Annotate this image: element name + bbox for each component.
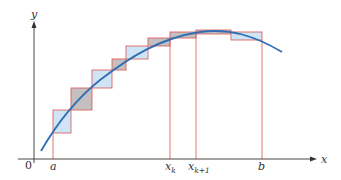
tick-label-xk1: xk+1 xyxy=(188,160,210,175)
origin-label: 0 xyxy=(25,159,32,172)
x-axis-label: x xyxy=(321,153,328,166)
step-rect-2 xyxy=(71,88,92,110)
tick-label-a: a xyxy=(50,160,57,173)
tick-label-xk: xk xyxy=(165,160,176,175)
step-rect-5 xyxy=(126,46,148,59)
x-axis-arrow-icon xyxy=(310,157,317,162)
step-rect-1 xyxy=(53,110,71,133)
step-rect-4 xyxy=(112,59,126,70)
step-rectangles xyxy=(53,30,262,133)
tick-label-b: b xyxy=(258,160,265,173)
riemann-diagram: y x 0 a xk xk+1 b xyxy=(0,0,341,180)
step-rect-6 xyxy=(148,38,170,46)
y-axis-label: y xyxy=(30,8,38,21)
axes xyxy=(18,26,312,163)
y-axis-arrow-icon xyxy=(32,21,37,28)
